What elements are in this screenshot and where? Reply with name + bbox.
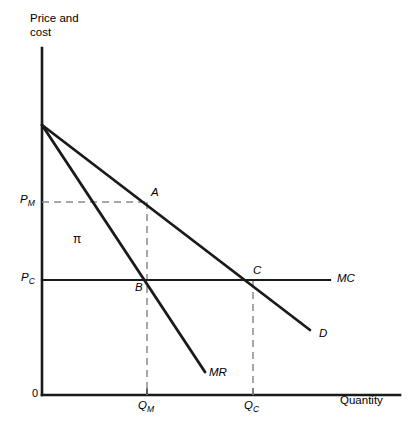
y-tick-label-pm: PM	[20, 193, 35, 208]
y-axis-title-line1: Price and	[30, 12, 79, 26]
x-tick-label-qm: QM	[138, 399, 154, 414]
y-tick-pm-base: P	[20, 193, 28, 205]
curve-label-marginal-cost: MC	[337, 272, 355, 286]
point-label-c: C	[253, 264, 261, 278]
curve-label-marginal-revenue: MR	[209, 366, 227, 380]
y-tick-pc-sub: C	[29, 276, 35, 286]
y-tick-pm-sub: M	[28, 198, 35, 208]
profit-region-label: π	[73, 232, 81, 246]
x-tick-label-qc: QC	[244, 399, 259, 414]
curve-label-demand: D	[319, 327, 327, 341]
plot-canvas	[0, 0, 408, 430]
y-axis-title-line2: cost	[30, 26, 79, 40]
y-axis-title: Price and cost	[30, 12, 79, 39]
x-tick-qc-base: Q	[244, 399, 253, 411]
point-label-a: A	[151, 186, 159, 200]
point-label-b: B	[135, 281, 143, 295]
x-tick-qc-sub: C	[253, 404, 259, 414]
y-tick-label-pc: PC	[21, 271, 35, 286]
curve-demand	[42, 125, 310, 330]
monopoly-diagram-figure: Price and cost Quantity 0 PM PC QM QC A …	[0, 0, 408, 430]
x-tick-qm-sub: M	[147, 404, 154, 414]
y-tick-pc-base: P	[21, 271, 29, 283]
curve-marginal-revenue	[42, 125, 205, 372]
x-axis-title: Quantity	[340, 394, 383, 408]
origin-label: 0	[32, 387, 38, 400]
x-tick-qm-base: Q	[138, 399, 147, 411]
